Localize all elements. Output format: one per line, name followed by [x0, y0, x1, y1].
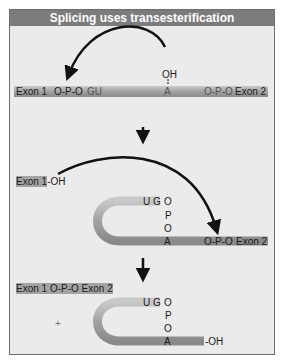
lariat-oh-label: -OH [205, 336, 223, 347]
lariat-tube-2 [98, 201, 269, 241]
ug-label: U G [143, 196, 161, 207]
phosphorus: P [165, 310, 172, 321]
phosphodiester-link-1: O-P-O [54, 86, 83, 97]
gu-label: GU [87, 86, 102, 97]
exon2-label: Exon 2 [236, 236, 267, 247]
ug-label: U G [143, 297, 161, 308]
attack-arrow-2 [58, 157, 216, 228]
phosphodiester-link-2: O-P-O [204, 236, 233, 247]
plus-sign: + [55, 318, 61, 329]
spliced-exons-label: Exon 1 O-P-O Exon 2 [16, 283, 113, 294]
branch-a-label: A [164, 86, 171, 97]
exon1-label: Exon 1 [16, 86, 47, 97]
phosphodiester-link-2: O-P-O [204, 86, 233, 97]
oxygen-2: O [164, 323, 172, 334]
exon2-label: Exon 2 [235, 86, 266, 97]
branch-a-label: A [164, 236, 171, 247]
oxygen-2: O [164, 223, 172, 234]
oxygen-1: O [164, 196, 172, 207]
attack-arrow-1 [69, 27, 165, 74]
oxygen-1: O [164, 297, 172, 308]
branch-a-label: A [164, 336, 171, 347]
oh-label: OH [162, 69, 177, 80]
exon1-label: Exon 1-OH [16, 176, 65, 187]
phosphorus: P [165, 210, 172, 221]
